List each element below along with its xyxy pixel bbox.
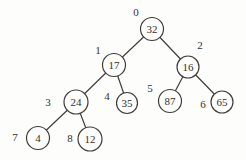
tree-node-index-3: 3	[45, 96, 51, 108]
tree-node-index-8: 8	[67, 132, 73, 144]
tree-node-value-1: 17	[109, 59, 121, 71]
tree-node-value-2: 16	[183, 61, 195, 73]
tree-node-index-1: 1	[95, 44, 101, 56]
tree-node-index-6: 6	[200, 98, 206, 110]
tree-node-value-7: 4	[35, 132, 41, 144]
tree-node-index-7: 7	[12, 131, 18, 143]
tree-node-value-0: 32	[147, 23, 158, 35]
tree-node-value-3: 24	[71, 96, 83, 108]
tree-node-value-5: 87	[165, 95, 177, 107]
tree-node-index-5: 5	[147, 82, 153, 94]
binary-tree-diagram: 32017116224335487565647128	[0, 0, 246, 160]
tree-node-index-0: 0	[133, 6, 139, 18]
binary-tree-canvas: 32017116224335487565647128	[0, 0, 246, 160]
tree-node-index-4: 4	[104, 90, 110, 102]
tree-node-value-8: 12	[85, 133, 96, 145]
tree-node-index-2: 2	[197, 39, 203, 51]
tree-node-value-4: 35	[122, 97, 134, 109]
tree-node-value-6: 65	[217, 96, 229, 108]
